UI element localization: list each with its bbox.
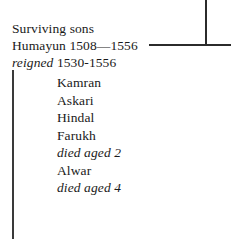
person-label-block: Surviving sons Humayun 1508—1556 reigned… [12,20,172,71]
reign-dates: 1530-1556 [57,55,116,70]
list-item-note: died aged 4 [57,179,207,197]
children-list: Kamran Askari Hindal Farukh died aged 2 … [57,74,207,197]
list-item: Farukh [57,127,207,145]
family-tree-fragment: Surviving sons Humayun 1508—1556 reigned… [0,0,231,239]
list-item-note: died aged 2 [57,144,207,162]
reign-line: reigned 1530-1556 [12,54,172,71]
list-item: Kamran [57,74,207,92]
humayun-name-and-dates: Humayun 1508—1556 [12,37,172,54]
list-item: Alwar [57,162,207,180]
list-item: Askari [57,92,207,110]
list-item: Hindal [57,109,207,127]
surviving-sons-heading: Surviving sons [12,20,172,37]
reigned-label: reigned [12,55,53,70]
vertical-connector-line-right [205,0,207,46]
vertical-bracket-line-left [12,70,14,239]
